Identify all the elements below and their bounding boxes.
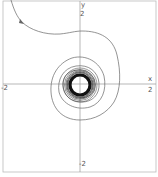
phase-portrait-plot: y 2 x 2 -2 -2 xyxy=(0,0,158,177)
x-max-tick-label: 2 xyxy=(148,86,152,94)
y-axis-label: y xyxy=(81,1,85,9)
y-max-tick-label: 2 xyxy=(80,10,84,18)
x-min-tick-label: -2 xyxy=(1,84,8,92)
y-min-tick-label: -2 xyxy=(79,160,86,168)
plot-frame xyxy=(3,1,156,172)
trajectory-curve xyxy=(11,0,120,120)
x-axis-label: x xyxy=(148,75,152,83)
